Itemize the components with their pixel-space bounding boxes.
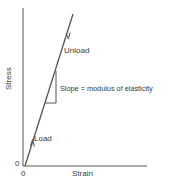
y-axis-label: Stress <box>4 67 13 90</box>
load-label: Load <box>34 135 52 143</box>
stress-strain-plot <box>0 0 186 190</box>
x-origin-label: 0 <box>21 170 25 178</box>
y-origin-label: 0 <box>15 160 19 168</box>
x-axis-label: Strain <box>72 170 93 178</box>
slope-label: Slope = modulus of elasticity <box>60 85 153 92</box>
unload-label: Unload <box>64 47 89 55</box>
